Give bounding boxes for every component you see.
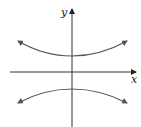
x-axis-label: x (131, 73, 138, 86)
upper-branch-curve-left (18, 41, 72, 56)
upper-branch-curve (72, 41, 127, 56)
y-axis-label: y (60, 6, 68, 19)
hyperbola-diagram: y x (0, 0, 141, 127)
lower-branch-curve-left (18, 89, 72, 103)
lower-branch-curve (72, 89, 127, 103)
